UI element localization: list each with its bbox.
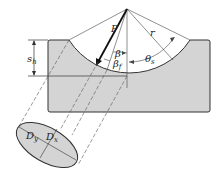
contact-ellipse [9,113,85,172]
theta-arrowhead-right-icon [170,37,175,42]
radius-label: r [150,27,156,38]
theta-arrowhead-left-icon [129,60,134,64]
beta-f-arc [104,59,110,61]
force-label: P [110,23,118,34]
depth-label: sh [27,53,37,66]
arrow-down-icon [32,71,36,76]
outer-ray-right [127,9,190,40]
arrow-up-icon [32,40,36,45]
diagram-canvas: sh P β βf θs r Dy Dx [0,0,218,172]
beta-f-label: βf [112,58,123,71]
beta-arrowhead-icon [122,51,126,55]
theta-label: θs [145,53,155,66]
